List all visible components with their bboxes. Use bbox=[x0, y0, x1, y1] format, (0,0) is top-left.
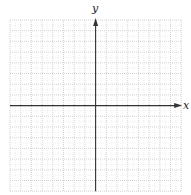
grid-graph bbox=[0, 0, 191, 195]
y-axis-arrow-icon bbox=[93, 18, 98, 26]
x-axis-label: x bbox=[183, 100, 189, 111]
y-axis-label: y bbox=[92, 3, 98, 14]
x-axis-arrow-icon bbox=[174, 103, 182, 108]
coordinate-plane: y x bbox=[0, 0, 191, 195]
